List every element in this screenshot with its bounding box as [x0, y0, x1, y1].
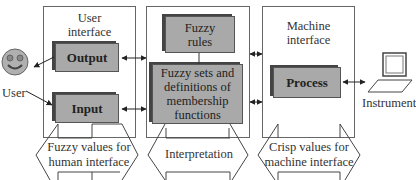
label-line: membership: [161, 94, 235, 108]
title-line: interface: [263, 33, 354, 47]
fuzzy-sets-box: Fuzzy sets and definitions of membership…: [152, 64, 243, 124]
instrument-label: Instrument: [362, 96, 416, 111]
label-line: rules: [185, 35, 216, 49]
output-box: Output: [55, 43, 119, 72]
label-line: Crisp values for: [260, 140, 358, 155]
label-line: definitions of: [161, 80, 235, 94]
label-line: Fuzzy sets and: [161, 66, 235, 80]
interpretation-label: Interpretation: [152, 147, 246, 162]
title-line: User: [44, 11, 135, 25]
crisp-values-label: Crisp values for machine interface: [260, 140, 358, 170]
title-line: interface: [44, 25, 135, 39]
label-line: Fuzzy: [185, 21, 216, 35]
fuzzy-rules-box: Fuzzy rules: [165, 16, 235, 53]
title-line: Machine: [263, 19, 354, 33]
user-label: User: [2, 86, 26, 101]
input-label: Input: [71, 102, 102, 116]
process-box: Process: [273, 67, 341, 98]
fuzzy-values-label: Fuzzy values for human interface: [42, 140, 136, 170]
user-smiley-icon: [2, 49, 28, 75]
input-box: Input: [55, 94, 119, 123]
instrument-computer-icon: [368, 53, 412, 92]
label-line: Fuzzy values for: [42, 140, 136, 155]
fuzzy-sets-label: Fuzzy sets and definitions of membership…: [161, 66, 235, 122]
process-label: Process: [286, 76, 328, 90]
machine-interface-title: Machine interface: [263, 19, 354, 47]
user-interface-title: User interface: [44, 11, 135, 39]
label-line: human interface: [42, 155, 136, 170]
fuzzy-rules-label: Fuzzy rules: [185, 21, 216, 49]
label-line: machine interface: [260, 155, 358, 170]
output-label: Output: [67, 51, 107, 65]
label-line: functions: [161, 108, 235, 122]
